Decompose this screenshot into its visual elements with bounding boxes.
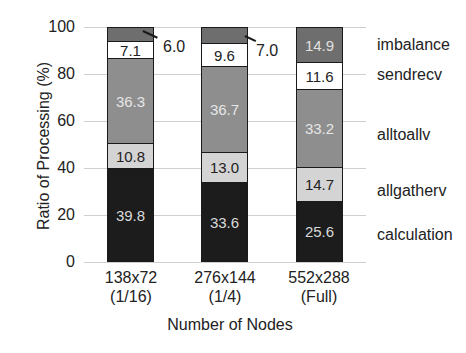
segment-allgatherv: 13.0 <box>201 152 248 183</box>
legend-alltoallv: alltoallv <box>377 127 430 143</box>
legend-imbalance: imbalance <box>377 37 450 53</box>
y-tick-80: 80 <box>35 66 75 82</box>
y-tick-40: 40 <box>35 160 75 176</box>
segment-imbalance: 14.9 <box>296 27 343 63</box>
legend-sendrecv: sendrecv <box>377 67 442 83</box>
segment-alltoallv: 36.3 <box>107 58 154 144</box>
y-tick-60: 60 <box>35 113 75 129</box>
y-tick-100: 100 <box>35 19 75 35</box>
segment-allgatherv: 14.7 <box>296 167 343 202</box>
segment-imbalance <box>201 27 248 44</box>
x-tick-line1: 552x288 <box>264 268 374 287</box>
segment-calculation: 33.6 <box>201 182 248 262</box>
segment-alltoallv: 33.2 <box>296 89 343 168</box>
segment-calculation: 39.8 <box>107 168 154 262</box>
segment-imbalance <box>107 27 154 42</box>
outside-label-imbalance-1: 6.0 <box>163 38 185 56</box>
x-tick-line2: (Full) <box>264 287 374 306</box>
segment-calculation: 25.6 <box>296 201 343 262</box>
value-label: 36.7 <box>210 101 239 118</box>
segment-sendrecv: 9.6 <box>201 43 248 67</box>
bar-138x72: 39.8 10.8 36.3 7.1 <box>107 27 154 262</box>
value-label: 39.8 <box>116 207 145 224</box>
segment-sendrecv: 7.1 <box>107 41 154 59</box>
legend-allgatherv: allgatherv <box>377 183 446 199</box>
value-label: 7.1 <box>120 42 141 59</box>
value-label: 33.6 <box>210 214 239 231</box>
bar-276x144: 33.6 13.0 36.7 9.6 <box>201 27 248 262</box>
value-label: 25.6 <box>305 223 334 240</box>
value-label: 13.0 <box>210 159 239 176</box>
y-tick-20: 20 <box>35 207 75 223</box>
value-label: 33.2 <box>305 120 334 137</box>
segment-sendrecv: 11.6 <box>296 62 343 90</box>
segment-allgatherv: 10.8 <box>107 143 154 169</box>
value-label: 14.9 <box>305 37 334 54</box>
segment-alltoallv: 36.7 <box>201 66 248 153</box>
value-label: 10.8 <box>116 148 145 165</box>
value-label: 14.7 <box>305 176 334 193</box>
value-label: 36.3 <box>116 93 145 110</box>
value-label: 9.6 <box>214 47 235 64</box>
gridline-0 <box>84 262 366 263</box>
x-axis-title: Number of Nodes <box>130 316 330 334</box>
x-tick-552x288: 552x288 (Full) <box>264 268 374 306</box>
bar-552x288: 25.6 14.7 33.2 11.6 14.9 <box>296 27 343 262</box>
stacked-bar-chart: Ratio of Processing (%) 100 80 60 40 20 … <box>0 0 466 353</box>
outside-label-imbalance-2: 7.0 <box>256 42 278 60</box>
value-label: 11.6 <box>305 68 333 85</box>
legend-calculation: calculation <box>377 227 453 243</box>
y-tick-0: 0 <box>35 254 75 270</box>
